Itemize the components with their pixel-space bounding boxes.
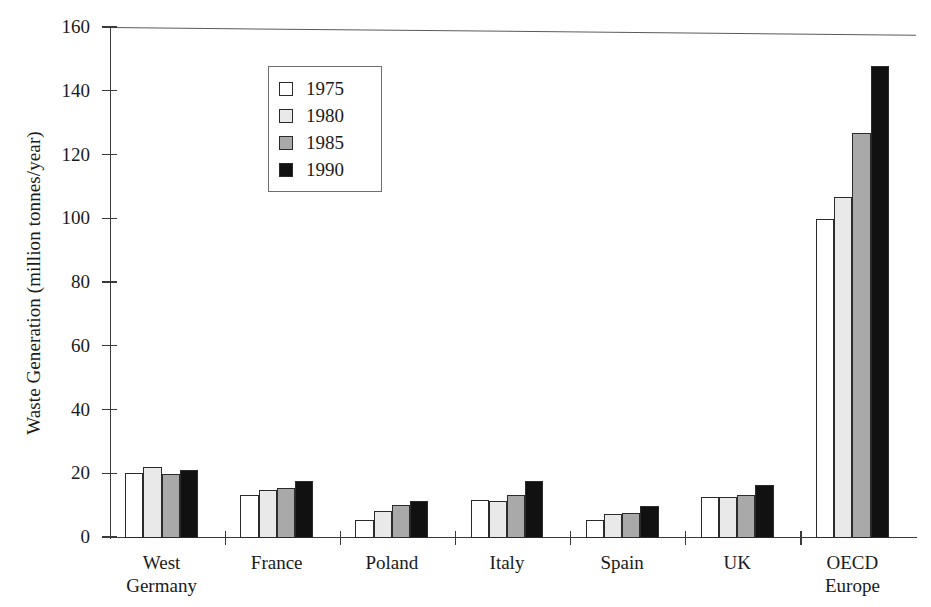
legend-label: 1980 [306, 106, 344, 125]
legend-item: 1975 [279, 75, 371, 102]
legend-label: 1975 [306, 79, 344, 98]
bar [143, 467, 161, 538]
legend-item: 1990 [279, 156, 371, 183]
bar [871, 66, 889, 538]
legend-label: 1990 [306, 160, 344, 179]
bar [701, 497, 719, 538]
bar [355, 520, 373, 538]
bar [719, 497, 737, 538]
bar-chart: Waste Generation (million tonnes/year) 0… [0, 0, 931, 607]
chart-legend: 1975198019851990 [268, 66, 382, 192]
legend-item: 1985 [279, 129, 371, 156]
bar [162, 474, 180, 538]
legend-swatch-icon [279, 163, 293, 177]
legend-label: 1985 [306, 133, 344, 152]
bar [259, 490, 277, 538]
bar [852, 133, 870, 538]
bar [240, 495, 258, 538]
legend-item: 1980 [279, 102, 371, 129]
x-category-label-line: Germany [87, 574, 237, 597]
legend-swatch-icon [279, 109, 293, 123]
x-category-label-line: Europe [777, 574, 927, 597]
bar [834, 197, 852, 538]
bar [737, 495, 755, 538]
bar [489, 501, 507, 538]
bar [622, 513, 640, 538]
bar [471, 500, 489, 538]
bar [392, 505, 410, 538]
x-category-label: OECDEurope [777, 551, 927, 598]
bars-layer [0, 0, 931, 538]
bar [125, 473, 143, 538]
legend-swatch-icon [279, 136, 293, 150]
bar [277, 488, 295, 538]
bar [507, 495, 525, 538]
bar [410, 501, 428, 538]
x-category-label-line: OECD [777, 551, 927, 574]
bar [816, 219, 834, 538]
bar [640, 506, 658, 538]
legend-swatch-icon [279, 82, 293, 96]
bar [295, 481, 313, 538]
bar [525, 481, 543, 538]
bar [604, 514, 622, 538]
bar [586, 520, 604, 538]
bar [755, 485, 773, 538]
bar [374, 511, 392, 538]
bar [180, 470, 198, 538]
